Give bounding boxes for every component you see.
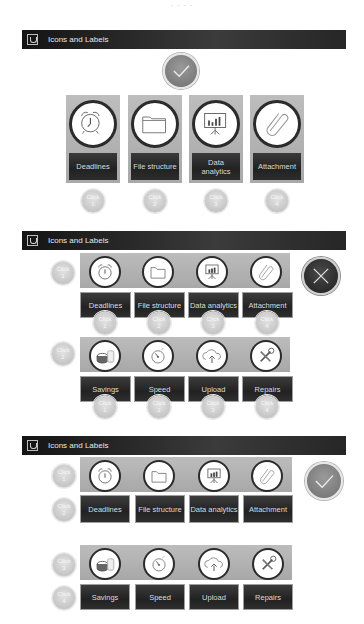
- section-header: Icons and Labels: [22, 30, 346, 49]
- card-file-structure[interactable]: File structure: [128, 95, 182, 183]
- label-attachment[interactable]: Attachment: [243, 495, 293, 523]
- label-deadlines[interactable]: Deadlines: [80, 495, 130, 523]
- click-badge[interactable]: Click2: [147, 395, 171, 419]
- row-click-badge[interactable]: Click2: [52, 498, 76, 522]
- click-badge[interactable]: Click4: [255, 311, 279, 335]
- folder-icon: [131, 100, 179, 148]
- paperclip-icon[interactable]: [250, 256, 282, 288]
- click-badge[interactable]: Click4: [265, 189, 289, 213]
- logo-icon: [27, 34, 38, 45]
- row-click-badge[interactable]: Click1: [52, 464, 76, 488]
- checkmark-icon: [163, 53, 199, 89]
- section-title: Icons and Labels: [48, 236, 109, 245]
- paperclip-icon[interactable]: [251, 460, 283, 492]
- label-file-structure[interactable]: File structure: [135, 495, 185, 523]
- label-repairs[interactable]: Repairs: [243, 584, 293, 610]
- logo-icon: [27, 440, 38, 451]
- click-badge[interactable]: Click1: [93, 395, 117, 419]
- logo-icon: [27, 235, 38, 246]
- row-click-badge[interactable]: Click1: [51, 261, 75, 285]
- card-label: Attachment: [253, 153, 301, 180]
- card-label: Data analytics: [192, 153, 240, 180]
- paperclip-icon: [253, 100, 301, 148]
- click-badge[interactable]: Click2: [147, 311, 171, 335]
- coins-jar-icon[interactable]: [89, 340, 121, 372]
- label-data-analytics[interactable]: Data analytics: [189, 495, 239, 523]
- click-badge[interactable]: Click3: [201, 395, 225, 419]
- x-icon: [302, 257, 340, 295]
- coins-jar-icon[interactable]: [89, 548, 121, 580]
- tools-icon[interactable]: [250, 340, 282, 372]
- click-badge[interactable]: Click3: [204, 189, 228, 213]
- label-speed[interactable]: Speed: [135, 584, 185, 610]
- section-header: Icons and Labels: [22, 231, 346, 250]
- presentation-chart-icon[interactable]: [196, 256, 228, 288]
- tools-icon[interactable]: [252, 548, 284, 580]
- folder-icon[interactable]: [143, 460, 175, 492]
- click-badge[interactable]: Click4: [255, 395, 279, 419]
- label-savings[interactable]: Savings: [80, 584, 130, 610]
- section-title: Icons and Labels: [48, 35, 109, 44]
- card-label: Deadlines: [69, 153, 117, 180]
- row-click-badge[interactable]: Click2: [51, 342, 75, 366]
- click-badge[interactable]: Click1: [93, 311, 117, 335]
- row-click-badge[interactable]: Click4: [52, 586, 76, 610]
- stopwatch-icon[interactable]: [142, 340, 174, 372]
- checkmark-icon: [305, 462, 343, 500]
- card-attachment[interactable]: Attachment: [250, 95, 304, 183]
- alarm-clock-icon[interactable]: [89, 460, 121, 492]
- cloud-upload-icon[interactable]: [196, 340, 228, 372]
- top-caption: - - - -: [0, 1, 364, 8]
- click-badge[interactable]: Click2: [143, 189, 167, 213]
- section-header: Icons and Labels: [22, 436, 346, 455]
- click-badge[interactable]: Click1: [81, 189, 105, 213]
- alarm-clock-icon[interactable]: [89, 256, 121, 288]
- section-title: Icons and Labels: [48, 441, 109, 450]
- click-badge[interactable]: Click3: [201, 311, 225, 335]
- folder-icon[interactable]: [142, 256, 174, 288]
- card-label: File structure: [131, 153, 179, 180]
- alarm-clock-icon: [69, 100, 117, 148]
- row-click-badge[interactable]: Click3: [52, 553, 76, 577]
- stopwatch-icon[interactable]: [143, 548, 175, 580]
- card-deadlines[interactable]: Deadlines: [66, 95, 120, 183]
- card-data-analytics[interactable]: Data analytics: [189, 95, 243, 183]
- presentation-chart-icon: [192, 100, 240, 148]
- presentation-chart-icon[interactable]: [198, 460, 230, 492]
- label-upload[interactable]: Upload: [189, 584, 239, 610]
- cloud-upload-icon[interactable]: [198, 548, 230, 580]
